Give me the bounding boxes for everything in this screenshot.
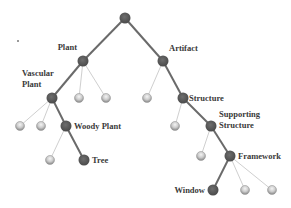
edge-framework-framework_leaf1 (230, 156, 245, 190)
node-artifact (158, 56, 169, 67)
label-line: Structure (219, 120, 254, 130)
taxonomy-tree-diagram: PlantArtifactVascularPlantStructureWoody… (0, 0, 291, 208)
stray-dot (17, 40, 19, 42)
node-structure_leaf1 (171, 122, 180, 131)
node-supporting_leaf1 (197, 152, 206, 161)
node-framework_leaf1 (241, 186, 250, 195)
node-framework_leaf2 (268, 186, 277, 195)
label-line: Plant (58, 42, 78, 52)
edge-plant-vascular (52, 61, 83, 98)
labels-layer: PlantArtifactVascularPlantStructureWoody… (22, 42, 281, 195)
node-structure (178, 93, 189, 104)
label-artifact: Artifact (169, 43, 198, 53)
label-line: Woody Plant (74, 121, 121, 131)
node-plant_leaf2 (102, 94, 111, 103)
edge-artifact-structure (163, 61, 183, 98)
label-line: Supporting (219, 109, 261, 119)
node-window (208, 185, 219, 196)
edge-vascular-vascular_leaf1 (20, 98, 52, 126)
edge-woody-woody_leaf1 (50, 126, 66, 160)
node-framework (225, 151, 236, 162)
node-artifact_leaf1 (143, 94, 152, 103)
edge-woody-tree (66, 126, 84, 160)
label-structure: Structure (189, 93, 224, 103)
label-window: Window (174, 185, 205, 195)
label-line: Framework (238, 151, 281, 161)
edge-artifact-artifact_leaf1 (147, 61, 163, 98)
node-woody (61, 121, 72, 132)
label-line: Vascular (22, 68, 54, 78)
edge-framework-window (213, 156, 230, 190)
label-supporting: SupportingStructure (219, 109, 261, 130)
node-supporting (206, 121, 217, 132)
edge-framework-framework_leaf2 (230, 156, 272, 190)
label-tree: Tree (92, 155, 108, 165)
edge-plant-plant_leaf2 (83, 61, 106, 98)
node-woody_leaf1 (46, 156, 55, 165)
edge-root-plant (83, 18, 125, 61)
node-tree (79, 155, 90, 166)
label-framework: Framework (238, 151, 281, 161)
node-vascular_leaf1 (16, 122, 25, 131)
node-plant_leaf1 (75, 94, 84, 103)
label-line: Tree (92, 155, 108, 165)
node-root (120, 13, 131, 24)
edge-root-artifact (125, 18, 163, 61)
label-vascular: VascularPlant (22, 68, 54, 89)
label-line: Window (174, 185, 205, 195)
label-line: Plant (22, 79, 42, 89)
node-plant (78, 56, 89, 67)
label-plant: Plant (58, 42, 78, 52)
label-line: Structure (189, 93, 224, 103)
label-woody: Woody Plant (74, 121, 121, 131)
node-vascular (47, 93, 58, 104)
node-vascular_leaf2 (37, 122, 46, 131)
label-line: Artifact (169, 43, 198, 53)
